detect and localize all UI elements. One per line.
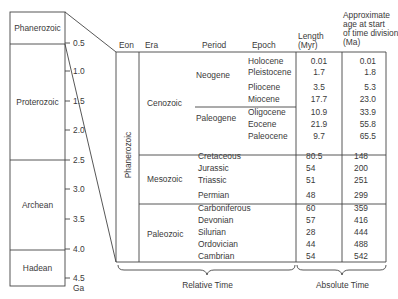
era-paleozoic: Paleozoic: [147, 229, 183, 239]
age-value: 444: [354, 227, 368, 237]
tick-label: 1.0: [73, 66, 85, 76]
eon-hadean: Hadean: [10, 263, 65, 273]
period-label: Silurian: [198, 227, 226, 237]
age-value: 416: [354, 215, 368, 225]
age-value: 55.8: [342, 119, 376, 129]
age-value: 299: [354, 190, 368, 200]
header-epoch: Epoch: [252, 40, 276, 50]
header-age-line4: (Ma): [343, 37, 360, 47]
length-value: 17.7: [296, 94, 342, 104]
age-value: 1.8: [342, 67, 376, 77]
tick-label: 1.5: [73, 96, 85, 106]
age-value: 148: [354, 151, 368, 161]
age-value: 200: [354, 163, 368, 173]
period-label: Jurassic: [198, 163, 229, 173]
tick-label: 2.0: [73, 125, 85, 135]
length-value: 60: [306, 203, 315, 213]
length-value: 80.5: [306, 151, 322, 161]
tick-label: 0.5: [73, 38, 85, 48]
relative-time-label: Relative Time: [170, 280, 245, 290]
period-label: Cretaceous: [198, 151, 241, 161]
period-label: Cambrian: [198, 251, 234, 261]
length-value: 3.5: [296, 82, 342, 92]
length-value: 1.7: [296, 67, 342, 77]
header-length-line2: (Myr): [298, 40, 318, 50]
length-value: 10.9: [296, 107, 342, 117]
epoch-label: Pliocene: [248, 82, 280, 92]
period-label: Carboniferous: [198, 203, 251, 213]
period-label: Ordovician: [198, 239, 238, 249]
age-value: 23.0: [342, 94, 376, 104]
absolute-time-label: Absolute Time: [305, 280, 380, 290]
age-value: 65.5: [342, 131, 376, 141]
eon-archean: Archean: [10, 200, 65, 210]
epoch-label: Holocene: [248, 56, 283, 66]
length-value: 54: [306, 251, 315, 261]
era-cenozoic: Cenozoic: [147, 98, 182, 108]
length-value: 54: [306, 163, 315, 173]
length-value: 48: [306, 190, 315, 200]
tick-label: 3.5: [73, 214, 85, 224]
age-value: 542: [354, 251, 368, 261]
eon-phanerozoic: Phanerozoic: [10, 23, 65, 33]
header-period: Period: [202, 40, 226, 50]
tick-label: 3.0: [73, 184, 85, 194]
length-value: 57: [306, 215, 315, 225]
period-label: Permian: [198, 190, 229, 200]
length-value: 28: [306, 227, 315, 237]
period-label: Triassic: [198, 175, 227, 185]
age-value: 33.9: [342, 107, 376, 117]
age-value: 359: [354, 203, 368, 213]
tick-label: 2.5: [73, 155, 85, 165]
header-eon: Eon: [119, 40, 134, 50]
length-value: 51: [306, 175, 315, 185]
epoch-label: Paleocene: [248, 131, 288, 141]
header-era: Era: [145, 40, 158, 50]
tick-label: 4.5: [73, 273, 85, 283]
tick-label: 4.0: [73, 244, 85, 254]
length-value: 0.01: [296, 56, 342, 66]
epoch-label: Pleistocene: [248, 67, 291, 77]
axis-unit: Ga: [73, 283, 84, 293]
age-value: 488: [354, 239, 368, 249]
period-paleogene: Paleogene: [196, 113, 236, 123]
length-value: 21.9: [296, 119, 342, 129]
epoch-label: Oligocene: [248, 107, 286, 117]
length-value: 9.7: [296, 131, 342, 141]
age-value: 5.3: [342, 82, 376, 92]
period-label: Devonian: [198, 215, 233, 225]
age-value: 251: [354, 175, 368, 185]
age-value: 0.01: [342, 56, 376, 66]
era-mesozoic: Mesozoic: [147, 174, 182, 184]
epoch-label: Eocene: [248, 119, 276, 129]
period-neogene: Neogene: [196, 70, 230, 80]
epoch-label: Miocene: [248, 94, 280, 104]
table-eon-phanerozoic: Phanerozoic: [123, 125, 133, 185]
length-value: 44: [306, 239, 315, 249]
eon-proterozoic: Proterozoic: [10, 97, 65, 107]
